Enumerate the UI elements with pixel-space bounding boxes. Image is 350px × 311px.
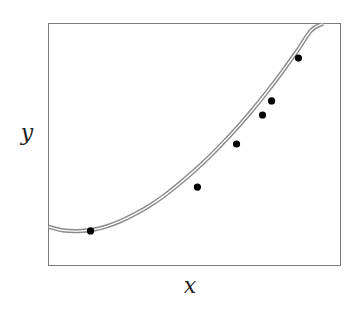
fitted-curve — [49, 24, 323, 232]
data-point — [259, 111, 266, 118]
data-point — [233, 140, 240, 147]
data-point — [268, 97, 275, 104]
chart: x y — [0, 0, 350, 311]
x-axis-label: x — [184, 273, 197, 298]
y-axis-label: y — [20, 120, 34, 145]
data-point — [87, 227, 94, 234]
data-point — [295, 55, 302, 62]
data-point — [194, 183, 201, 190]
data-points — [87, 55, 302, 235]
